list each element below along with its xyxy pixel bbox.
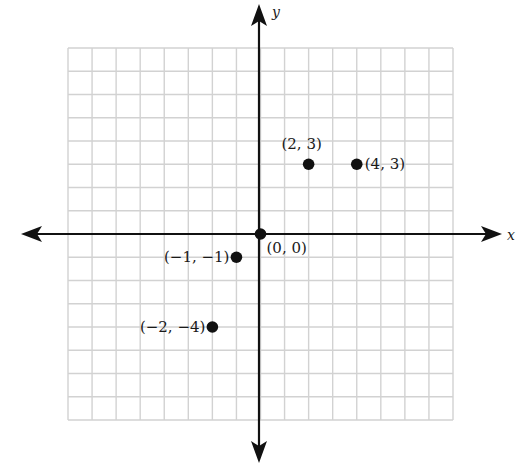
data-point (207, 321, 219, 333)
data-point (255, 228, 267, 240)
point-label: (−2, −4) (140, 318, 205, 336)
points: (0, 0)(2, 3)(4, 3)(−1, −1)(−2, −4) (140, 135, 405, 336)
point-label: (−1, −1) (164, 248, 229, 266)
axes: x y (21, 4, 515, 463)
point-label: (2, 3) (281, 135, 321, 153)
data-point (351, 158, 363, 170)
data-point (303, 158, 315, 170)
coordinate-plane: x y (0, 0)(2, 3)(4, 3)(−1, −1)(−2, −4) (0, 0, 516, 468)
point-label: (4, 3) (365, 155, 405, 173)
point-label: (0, 0) (267, 239, 307, 257)
y-axis-label: y (271, 4, 281, 20)
x-axis-label: x (507, 227, 515, 243)
data-point (231, 251, 243, 263)
